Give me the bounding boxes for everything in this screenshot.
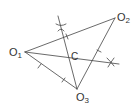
label-subscript: 3 [85,96,89,105]
point-label-O3: O3 [76,92,89,103]
point-label-O1: O1 [9,47,22,58]
edge-O2-O3 [77,18,115,89]
label-text: O [117,11,126,23]
diagram-canvas: O1 O2 O3 C [0,0,139,112]
label-text: C [71,51,78,62]
tick-mark [38,64,41,68]
label-text: O [9,46,18,58]
edge-O1-O2 [25,18,115,52]
point-label-O2: O2 [117,12,130,23]
label-text: O [76,91,85,103]
label-subscript: 2 [126,16,130,25]
label-subscript: 1 [18,51,22,60]
point-label-C: C [71,51,78,62]
